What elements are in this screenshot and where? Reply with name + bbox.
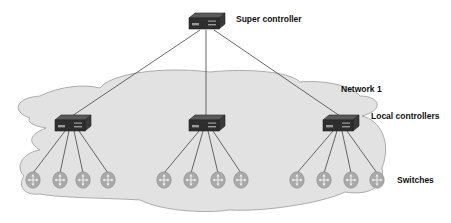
local-controller-1-icon bbox=[55, 115, 91, 131]
switch-icon bbox=[370, 172, 384, 188]
switches-label: Switches bbox=[397, 175, 434, 185]
super-controller-label: Super controller bbox=[236, 14, 302, 24]
switch-icon bbox=[344, 172, 358, 188]
switch-icon bbox=[76, 172, 90, 188]
network-cloud bbox=[18, 70, 385, 212]
local-controller-3-icon bbox=[323, 115, 359, 131]
super-controller-icon bbox=[189, 13, 225, 29]
switch-icon bbox=[184, 172, 198, 188]
local-controller-2-icon bbox=[189, 115, 225, 131]
switch-icon bbox=[26, 172, 40, 188]
switch-icon bbox=[157, 172, 171, 188]
switch-icon bbox=[211, 172, 225, 188]
switch-icon bbox=[234, 172, 248, 188]
local-controllers-label: Local controllers bbox=[371, 111, 440, 121]
switch-icon bbox=[290, 172, 304, 188]
switch-icon bbox=[53, 172, 67, 188]
switch-icon bbox=[101, 172, 115, 188]
network-label: Network 1 bbox=[341, 84, 382, 94]
switch-icon bbox=[317, 172, 331, 188]
